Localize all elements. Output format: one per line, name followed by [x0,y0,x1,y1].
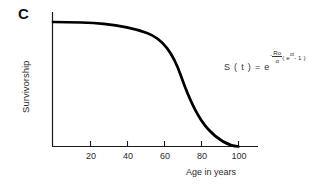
x-tick-label-100: 100 [224,152,254,161]
x-tick-label-20: 20 [76,152,106,161]
survivorship-figure: C 20 40 60 80 100 Age in years Survivors… [0,0,319,186]
equation-factor-exponent-t: t [293,52,294,57]
survivorship-curve [53,22,239,147]
equation-denominator: α [272,57,282,64]
equation-fraction: Roα [272,50,282,64]
x-tick-label-80: 80 [187,152,217,161]
y-axis-label: Survivorship [21,44,31,130]
x-axis-ticks [91,141,239,147]
equation-factor-tail: - 1 ) [294,54,306,61]
x-tick-label-60: 60 [150,152,180,161]
x-axis-label: Age in years [186,168,236,177]
equation-exponent: -Roα( eαt- 1 ) [270,51,306,65]
equation-lhs: S ( t ) = e [224,62,270,72]
equation-annotation: S ( t ) = e-Roα( eαt- 1 ) [224,57,306,72]
x-tick-label-40: 40 [113,152,143,161]
equation-factor-open: ( e [282,54,290,61]
